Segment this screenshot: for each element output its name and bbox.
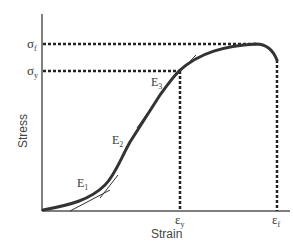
sigma-symbol: σ (27, 36, 34, 51)
subscript-1: 1 (84, 183, 88, 192)
stress-strain-diagram: σf σy Stress εy εf Strain E1 E2 E3 (0, 0, 293, 248)
subscript-2: 2 (119, 140, 123, 149)
e1-label: E1 (77, 177, 88, 189)
tangent-e3 (137, 98, 158, 128)
tangent-yield (170, 55, 196, 82)
subscript-f: f (277, 220, 280, 229)
sigma-y-label: σy (27, 64, 38, 77)
plot-area (0, 0, 293, 248)
x-axis-title: Strain (151, 228, 182, 240)
e2-label: E2 (112, 134, 123, 146)
subscript-f: f (34, 44, 37, 53)
subscript-y: y (34, 71, 38, 80)
sigma-symbol: σ (27, 63, 34, 78)
sigma-f-label: σf (27, 37, 37, 50)
epsilon-f-label: εf (272, 213, 280, 226)
epsilon-y-label: εy (175, 213, 184, 226)
y-axis-title: Stress (17, 114, 29, 148)
subscript-3: 3 (158, 82, 162, 91)
e3-label: E3 (151, 76, 162, 88)
